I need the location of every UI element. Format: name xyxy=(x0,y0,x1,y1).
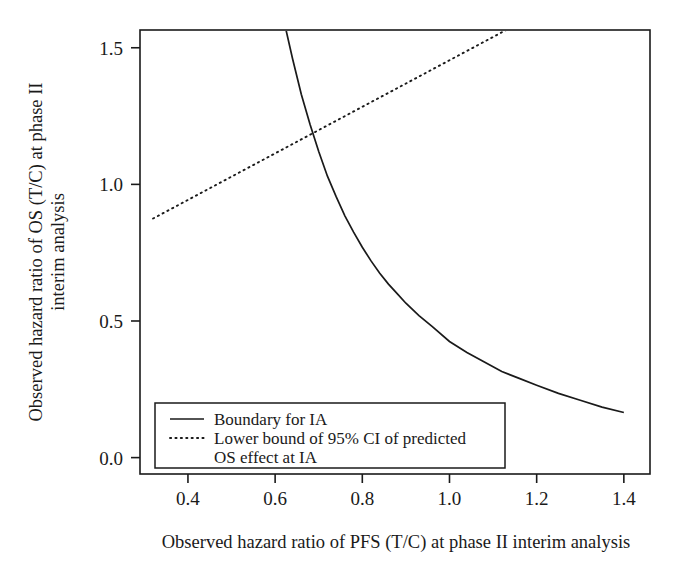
x-axis-ticks xyxy=(188,474,624,483)
series-lower-bound-ci xyxy=(153,30,506,219)
legend-label-boundary: Boundary for IA xyxy=(214,410,328,429)
legend-label-lower-bound-line2: OS effect at IA xyxy=(214,448,318,467)
y-axis-title-line1: Observed hazard ratio of OS (T/C) at pha… xyxy=(26,82,47,421)
x-tick-label: 1.0 xyxy=(438,488,462,509)
y-axis-tick-labels: 0.00.51.01.5 xyxy=(99,38,123,469)
y-tick-label: 0.5 xyxy=(99,311,123,332)
chart-figure: 0.40.60.81.01.21.4 0.00.51.01.5 Boundary… xyxy=(0,0,692,564)
y-axis-title-line2: interim analysis xyxy=(48,193,68,311)
y-tick-label: 1.0 xyxy=(99,174,123,195)
y-tick-label: 0.0 xyxy=(99,448,123,469)
x-tick-label: 0.4 xyxy=(176,488,200,509)
x-tick-label: 1.2 xyxy=(525,488,549,509)
y-tick-label: 1.5 xyxy=(99,38,123,59)
series-boundary-for-ia xyxy=(286,30,624,413)
hazard-ratio-chart: 0.40.60.81.01.21.4 0.00.51.01.5 Boundary… xyxy=(0,0,692,564)
x-tick-label: 0.8 xyxy=(350,488,374,509)
x-tick-label: 1.4 xyxy=(612,488,636,509)
legend-label-lower-bound-line1: Lower bound of 95% CI of predicted xyxy=(214,429,467,448)
x-axis-title: Observed hazard ratio of PFS (T/C) at ph… xyxy=(162,532,631,553)
y-axis-ticks xyxy=(131,48,140,458)
x-axis-tick-labels: 0.40.60.81.01.21.4 xyxy=(176,488,636,509)
x-tick-label: 0.6 xyxy=(263,488,287,509)
